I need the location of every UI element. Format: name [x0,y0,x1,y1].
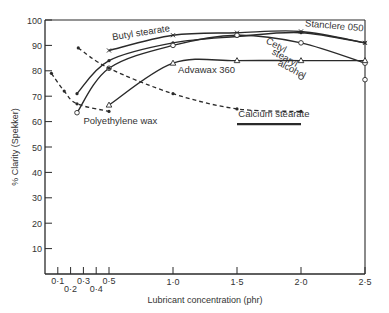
x-tick-label: 0·3 [77,276,90,286]
x-tick-label: 2·0 [294,277,307,287]
circle-marker-icon [363,77,368,82]
dot-marker-icon [107,59,110,62]
dot-marker-icon [75,92,78,95]
x-tick-label: 0·4 [90,284,103,294]
clarity-chart: 1020304050607080901000·10·20·30·40·51·01… [0,0,389,313]
y-tick-label: 50 [32,143,42,153]
series-label: Polyethylene wax [83,115,157,126]
y-tick-label: 20 [32,219,42,229]
series-stanclere-050: Stanclere 050 [75,17,366,95]
series-label: Advawax 360 [178,64,235,75]
y-tick-label: 40 [32,168,42,178]
axes: 1020304050607080901000·10·20·30·40·51·01… [27,16,372,295]
x-tick-label: 0·1 [51,276,64,286]
y-tick-label: 70 [32,92,42,102]
y-tick-label: 100 [27,16,42,26]
plot-area: Butyl stearateStanclere 050Cetylstearyla… [50,17,368,126]
series-polyethylene-wax: Polyethylene wax [50,72,158,126]
circle-marker-icon [75,110,80,115]
circle-marker-icon [299,41,304,46]
y-tick-label: 10 [32,244,42,254]
circle-marker-icon [235,33,240,38]
series-label: Butyl stearate [111,22,170,42]
dot-marker-icon [63,90,66,93]
series-advawax-360: Advawax 360 [106,58,368,107]
circle-marker-icon [299,75,304,80]
y-tick-label: 90 [32,41,42,51]
x-tick-label: 1·0 [166,277,179,287]
dot-marker-icon [50,72,53,75]
dot-marker-icon [363,41,366,44]
circle-marker-icon [171,43,176,48]
series-label: Calcium stearate [238,108,309,119]
series-line [78,48,301,112]
y-tick-label: 80 [32,66,42,76]
dot-marker-icon [107,110,110,113]
dot-marker-icon [299,31,302,34]
dot-marker-icon [171,92,174,95]
series-line [109,59,365,105]
x-axis-title: Lubricant concentration (phr) [147,295,262,305]
x-tick-label: 0·2 [64,284,77,294]
y-axis-title: % Clarity (Spekker) [10,108,20,186]
series-line [51,73,109,111]
y-tick-label: 30 [32,193,42,203]
series-line [77,32,365,93]
x-tick-label: 2·5 [358,277,371,287]
chart-canvas: 1020304050607080901000·10·20·30·40·51·01… [0,0,389,313]
x-tick-label: 0·5 [102,276,115,286]
x-tick-label: 1·5 [230,277,243,287]
y-tick-label: 60 [32,117,42,127]
dot-marker-icon [107,67,110,70]
dot-marker-icon [77,46,80,49]
dot-marker-icon [75,102,78,105]
